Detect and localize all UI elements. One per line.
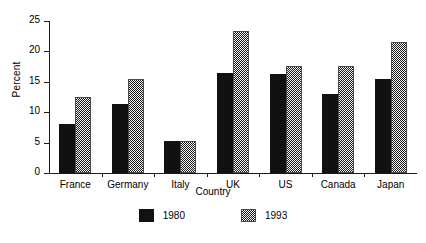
x-tick — [259, 173, 260, 177]
bar-group — [322, 21, 354, 173]
plot-area: 0510152025 FranceGermanyItalyUKUSCanadaJ… — [49, 21, 417, 173]
x-tick — [102, 173, 103, 177]
bar-group — [217, 21, 249, 173]
bar-italy-1993 — [180, 141, 196, 173]
bar-japan-1980 — [375, 79, 391, 173]
bar-italy-1980 — [164, 141, 180, 173]
legend-label-1993: 1993 — [265, 210, 287, 222]
bar-group — [59, 21, 91, 173]
bar-france-1980 — [59, 124, 75, 173]
chart-legend: 19801993 — [0, 209, 426, 222]
bar-france-1993 — [75, 97, 91, 173]
legend-item-1993[interactable]: 1993 — [241, 209, 287, 222]
y-tick: 10 — [44, 112, 49, 113]
y-tick-label: 20 — [29, 44, 40, 56]
bar-group — [270, 21, 302, 173]
bar-group — [164, 21, 196, 173]
x-tick — [312, 173, 313, 177]
legend-item-1980[interactable]: 1980 — [139, 209, 185, 222]
legend-swatch-1980 — [139, 209, 154, 222]
y-tick-label: 10 — [29, 105, 40, 117]
x-tick — [364, 173, 365, 177]
y-axis-line — [49, 21, 50, 173]
bar-group — [375, 21, 407, 173]
legend-swatch-1993 — [241, 209, 256, 222]
x-tick — [154, 173, 155, 177]
bar-germany-1993 — [128, 79, 144, 173]
y-tick: 15 — [44, 82, 49, 83]
bar-chart-figure: Percent 0510152025 FranceGermanyItalyUKU… — [0, 0, 426, 243]
bar-us-1993 — [286, 66, 302, 173]
bar-canada-1993 — [338, 66, 354, 173]
bar-germany-1980 — [112, 104, 128, 173]
y-tick-label: 0 — [34, 166, 40, 178]
x-axis-line — [49, 173, 417, 174]
y-tick-label: 15 — [29, 75, 40, 87]
bar-canada-1980 — [322, 94, 338, 173]
y-axis-title: Percent — [11, 40, 22, 120]
y-tick-label: 25 — [29, 14, 40, 26]
bar-uk-1980 — [217, 73, 233, 173]
y-tick-label: 5 — [34, 136, 40, 148]
y-tick: 25 — [44, 21, 49, 22]
bar-japan-1993 — [391, 42, 407, 173]
y-tick: 0 — [44, 173, 49, 174]
bar-group — [112, 21, 144, 173]
legend-label-1980: 1980 — [163, 210, 185, 222]
x-tick — [207, 173, 208, 177]
y-tick: 20 — [44, 51, 49, 52]
bar-us-1980 — [270, 74, 286, 173]
x-axis-title: Country — [0, 186, 426, 197]
bar-uk-1993 — [233, 31, 249, 173]
y-tick: 5 — [44, 143, 49, 144]
